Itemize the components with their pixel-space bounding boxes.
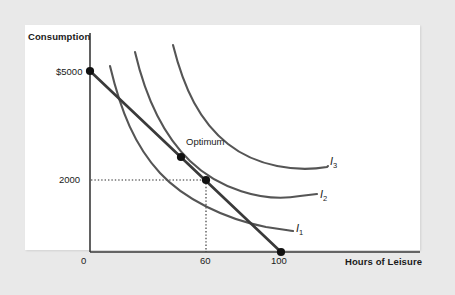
chart-canvas (0, 0, 455, 295)
x-tick-label-100: 100 (271, 255, 287, 266)
y-axis-title: Consumption (28, 31, 90, 42)
curve-label-i2: I2 (320, 188, 327, 203)
curve-label-i3: I3 (330, 155, 337, 170)
x-tick-label-0: 0 (81, 255, 86, 266)
y-intercept-point (86, 67, 94, 75)
x-axis-title: Hours of Leisure (345, 256, 422, 267)
curve-label-i3-subscript: 3 (333, 161, 337, 170)
y-tick-label-5000: $5000 (56, 66, 82, 77)
x-tick-label-60: 60 (200, 255, 211, 266)
figure-container: Consumption Hours of Leisure $5000 2000 … (0, 0, 455, 295)
y-tick-label-2000: 2000 (59, 174, 80, 185)
optimum-annotation-label: Optimum (186, 136, 225, 147)
curve-label-i1-subscript: 1 (299, 228, 303, 237)
consumption-2000-point (202, 176, 210, 184)
curve-label-i2-subscript: 2 (323, 194, 327, 203)
curve-label-i1: I1 (296, 222, 303, 237)
budget-constraint-line (90, 71, 281, 252)
optimum-point (177, 153, 185, 161)
indifference-curve-i1 (110, 66, 293, 231)
indifference-curve-i3 (173, 45, 328, 169)
